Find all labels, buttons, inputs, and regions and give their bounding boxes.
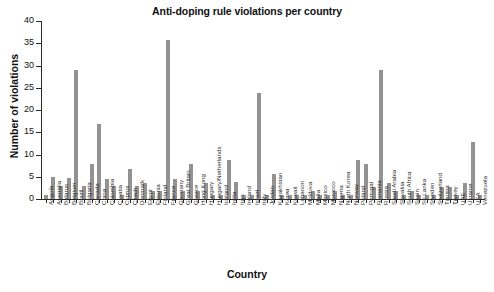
y-tick-label: 30: [0, 61, 34, 70]
x-tick-label: Korea: [284, 188, 290, 205]
x-tick-label: Angola: [48, 186, 54, 205]
x-tick-label: Brazil: [78, 190, 84, 205]
x-tick-label: Belarus: [63, 184, 69, 205]
x-tick-label: Hong Kong: [200, 174, 206, 205]
x-axis-tick-labels: AngolaAustraliaBelarusBelgiumBrazilBulga…: [42, 205, 484, 265]
y-tick-label: 15: [0, 127, 34, 136]
y-tick: [36, 177, 41, 178]
x-tick-label: Morocco: [330, 181, 336, 205]
x-tick-label: France: [170, 186, 176, 205]
bar: [166, 40, 170, 199]
x-tick-label: Mexico: [322, 185, 328, 205]
x-tick-label: Ireland: [246, 186, 252, 205]
x-tick-label: Jordan: [269, 186, 275, 205]
x-tick-label: Ukraine: [467, 184, 473, 205]
x-tick-label: Hungary/Netherlands: [216, 147, 222, 205]
x-tick-label: North Korea: [345, 172, 351, 205]
x-tick-label: Sweden: [429, 183, 435, 205]
x-tick-label: Croatia: [117, 185, 123, 205]
x-tick-label: Italy: [261, 194, 267, 205]
x-tick-label: Malta: [315, 190, 321, 205]
x-tick-label: Moldova: [307, 182, 313, 205]
x-tick-label: Turkey: [452, 186, 458, 205]
x-tick-label: Venezuela: [482, 176, 488, 205]
x-tick-label: Lebanon: [299, 181, 305, 205]
x-tick-label: Cyprus: [124, 185, 130, 205]
chart-title: Anti-doping rule violations per country: [0, 5, 494, 17]
x-tick-label: Iceland: [223, 185, 229, 205]
x-tick-label: Hungary: [208, 182, 214, 205]
x-tick-label: India: [231, 192, 237, 205]
x-tick-label: UAE: [460, 192, 466, 205]
x-tick-label: Great Britain: [185, 170, 191, 205]
y-tick-label: 35: [0, 38, 34, 47]
x-tick-label: Estonia: [155, 184, 161, 205]
x-tick-label: Romania: [376, 180, 382, 205]
x-tick-label: Bulgaria: [86, 182, 92, 205]
x-tick-label: Australia: [56, 181, 62, 205]
x-tick-label: Tunisia: [444, 185, 450, 205]
x-tick-label: South Africa: [406, 172, 412, 205]
x-tick-label: Denmark: [139, 180, 145, 205]
y-tick: [36, 43, 41, 44]
y-tick: [36, 199, 41, 200]
x-tick-label: Portugal: [368, 182, 374, 205]
x-tick-label: Switzerland: [437, 173, 443, 205]
y-tick-label: 25: [0, 83, 34, 92]
y-tick: [36, 132, 41, 133]
x-tick-label: Nigeria: [338, 185, 344, 205]
bar-chart: Anti-doping rule violations per country …: [0, 0, 494, 292]
y-tick: [36, 88, 41, 89]
x-tick-label: Saudi Arabia: [391, 170, 397, 205]
bar: [74, 70, 78, 199]
x-tick-label: Russia: [383, 186, 389, 205]
x-tick-label: Germany: [178, 180, 184, 205]
x-tick-label: Poland: [360, 186, 366, 205]
x-tick-label: Colombia: [109, 179, 115, 205]
y-tick-label: 5: [0, 172, 34, 181]
y-tick: [36, 155, 41, 156]
y-tick: [36, 110, 41, 111]
y-tick-label: 0: [0, 194, 34, 203]
x-tick-label: Kazakhstan: [277, 173, 283, 205]
y-tick-label: 10: [0, 150, 34, 159]
bar-series: [42, 21, 484, 199]
x-axis-title: Country: [0, 268, 494, 280]
x-tick-label: Finland: [162, 185, 168, 205]
x-tick-label: Iran: [239, 194, 245, 205]
y-tick: [36, 66, 41, 67]
x-tick-label: Canada: [94, 183, 100, 205]
y-tick-label: 40: [0, 16, 34, 25]
y-tick: [36, 21, 41, 22]
bar: [257, 93, 261, 199]
x-tick-label: China: [101, 189, 107, 205]
x-tick-label: Egypt: [147, 189, 153, 205]
x-tick-label: Sri Lanka: [421, 179, 427, 205]
y-tick-label: 20: [0, 105, 34, 114]
x-tick-label: Slovakia: [399, 182, 405, 205]
